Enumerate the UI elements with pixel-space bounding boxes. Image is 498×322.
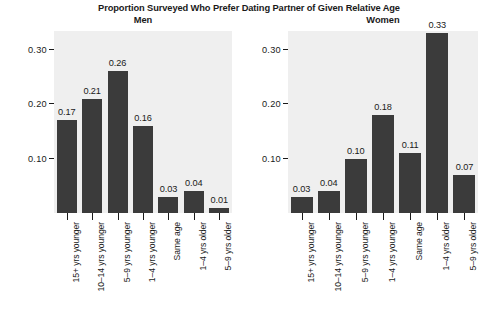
x-axis-category-label: 10–14 yrs younger xyxy=(333,222,343,291)
x-axis-category-label: 15+ yrs younger xyxy=(71,222,81,282)
bar-value-label: 0.04 xyxy=(176,178,212,188)
y-axis-women: 0.100.200.30 xyxy=(234,31,288,213)
x-axis-category-label: 15+ yrs younger xyxy=(306,222,316,282)
y-tick-mark xyxy=(49,158,54,159)
bar-value-label: 0.26 xyxy=(100,58,136,68)
panel-title-men: Men xyxy=(103,15,183,25)
x-axis-category-label: 5–9 yrs younger xyxy=(360,222,370,282)
y-tick-text: 0.10 xyxy=(262,154,281,164)
y-tick-text: 0.20 xyxy=(262,99,281,109)
y-tick-text: 0.30 xyxy=(262,45,281,55)
x-axis-category-label: Same age xyxy=(414,222,424,260)
x-axis-tick-mark xyxy=(143,213,144,220)
y-tick-mark xyxy=(283,49,288,50)
bar xyxy=(82,99,102,213)
chart-figure: Proportion Surveyed Who Prefer Dating Pa… xyxy=(0,0,498,322)
bar xyxy=(345,159,367,214)
x-axis-tick-mark xyxy=(437,213,438,220)
y-tick-mark xyxy=(283,158,288,159)
bar-value-label: 0.07 xyxy=(445,162,483,172)
x-axis-category-label: 1–4 yrs older xyxy=(441,222,451,270)
bar xyxy=(399,153,421,213)
x-axis-tick-mark xyxy=(464,213,465,220)
bar-value-label: 0.21 xyxy=(74,86,110,96)
x-axis-category-label: 1–4 yrs older xyxy=(198,222,208,270)
y-axis-tick-label: 0.20 xyxy=(262,98,288,110)
x-axis-category-label: Same age xyxy=(172,222,182,260)
x-axis-tick-mark xyxy=(410,213,411,220)
bar xyxy=(57,120,77,213)
y-axis-tick-label: 0.10 xyxy=(28,153,54,165)
bar-value-label: 0.10 xyxy=(337,146,375,156)
x-axis-tick-mark xyxy=(302,213,303,220)
y-tick-text: 0.10 xyxy=(28,154,47,164)
y-tick-mark xyxy=(283,103,288,104)
bar-value-label: 0.17 xyxy=(49,107,85,117)
x-axis-category-label: 5–9 yrs older xyxy=(468,222,478,270)
x-axis-category-label: 5–9 yrs older xyxy=(223,222,233,270)
y-tick-text: 0.30 xyxy=(28,45,47,55)
x-axis-tick-mark xyxy=(92,213,93,220)
x-axis-tick-mark xyxy=(356,213,357,220)
bar xyxy=(453,175,475,213)
x-axis-tick-mark xyxy=(219,213,220,220)
x-axis-category-label: 1–4 yrs younger xyxy=(147,222,157,282)
bar-value-label: 0.33 xyxy=(418,20,456,30)
bar xyxy=(372,115,394,213)
panel-title-women: Women xyxy=(343,15,423,25)
bar xyxy=(158,197,178,213)
bar-value-label: 0.16 xyxy=(125,113,161,123)
x-axis-tick-mark xyxy=(383,213,384,220)
y-axis-tick-label: 0.30 xyxy=(262,44,288,56)
bar xyxy=(108,71,128,213)
x-axis-category-label: 5–9 yrs younger xyxy=(122,222,132,282)
bar-value-label: 0.18 xyxy=(364,102,402,112)
y-axis-tick-label: 0.30 xyxy=(28,44,54,56)
y-tick-text: 0.20 xyxy=(28,99,47,109)
x-axis-tick-mark xyxy=(168,213,169,220)
x-axis-tick-mark xyxy=(329,213,330,220)
bar-value-label: 0.04 xyxy=(310,178,348,188)
x-axis-tick-mark xyxy=(118,213,119,220)
bar xyxy=(133,126,153,213)
bar-value-label: 0.11 xyxy=(391,140,429,150)
bar-value-label: 0.01 xyxy=(201,195,237,205)
y-axis-tick-label: 0.10 xyxy=(262,153,288,165)
chart-title: Proportion Surveyed Who Prefer Dating Pa… xyxy=(0,3,498,13)
x-axis-tick-mark xyxy=(194,213,195,220)
y-tick-mark xyxy=(49,103,54,104)
y-tick-mark xyxy=(49,49,54,50)
bar xyxy=(426,33,448,213)
x-axis-category-label: 1–4 yrs younger xyxy=(387,222,397,282)
x-axis-tick-mark xyxy=(67,213,68,220)
x-axis-category-label: 10–14 yrs younger xyxy=(96,222,106,291)
y-axis-men: 0.100.200.30 xyxy=(0,31,54,213)
bar xyxy=(318,191,340,213)
bar xyxy=(291,197,313,213)
